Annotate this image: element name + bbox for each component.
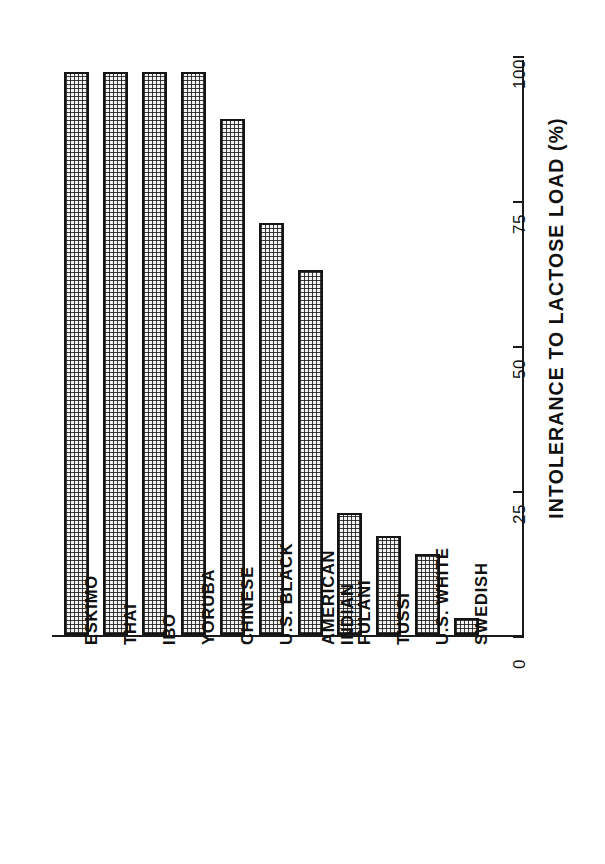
category-label: CHINESE — [238, 566, 256, 645]
category-label: IBO — [160, 613, 178, 645]
axis-tick-label: 50 — [510, 335, 530, 379]
category-label: FULANI — [355, 580, 373, 645]
bar — [103, 72, 128, 635]
category-label: THAI — [121, 603, 139, 645]
chart-figure: 0255075100 INTOLERANCE TO LACTOSE LOAD (… — [0, 0, 605, 864]
category-label: SWEDISH — [472, 562, 490, 645]
bar — [64, 72, 89, 635]
category-label: ESKIMO — [82, 575, 100, 645]
axis-tick-label: 100 — [510, 45, 530, 89]
category-label: U.S. WHITE — [433, 547, 451, 645]
axis-tick-label: 25 — [510, 480, 530, 524]
bar — [181, 72, 206, 635]
axis-tick-label: 75 — [510, 190, 530, 234]
bar — [220, 119, 245, 635]
bar — [142, 72, 167, 635]
category-label: AMERICAN INDIAN — [319, 550, 357, 645]
value-axis-title: INTOLERANCE TO LACTOSE LOAD (%) — [545, 117, 568, 518]
category-label: YORUBA — [199, 569, 217, 645]
category-label: U.S. BLACK — [277, 543, 295, 645]
axis-tick-label: 0 — [510, 625, 530, 669]
category-label: TUSSI — [394, 592, 412, 645]
